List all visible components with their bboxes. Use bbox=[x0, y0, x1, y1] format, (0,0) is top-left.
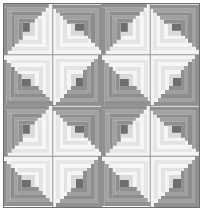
dark-log-bottom bbox=[67, 192, 90, 196]
quilt-block bbox=[4, 55, 53, 106]
dark-log-right bbox=[102, 109, 106, 156]
quilt-block bbox=[4, 106, 53, 157]
dark-log-bottom bbox=[116, 121, 132, 125]
dark-log-right bbox=[195, 55, 199, 102]
dark-log-bottom bbox=[91, 12, 95, 42]
light-log-left bbox=[157, 144, 189, 148]
light-log-top bbox=[144, 161, 148, 199]
dark-log-right bbox=[94, 160, 98, 199]
dark-log-right bbox=[116, 191, 140, 195]
dark-log-bottom bbox=[56, 203, 101, 207]
light-log-left bbox=[59, 43, 91, 47]
light-log-left bbox=[34, 23, 38, 39]
quilt-block bbox=[102, 55, 151, 106]
dark-log-right bbox=[83, 171, 87, 187]
center-square-dark bbox=[22, 79, 31, 87]
dark-log-bottom bbox=[192, 9, 196, 47]
dark-log-bottom bbox=[181, 121, 185, 137]
light-log-left bbox=[143, 12, 147, 51]
light-log-left bbox=[136, 121, 140, 145]
dark-log-bottom bbox=[169, 188, 185, 192]
dark-log-right bbox=[18, 191, 42, 195]
dark-log-right bbox=[150, 107, 196, 111]
light-log-left bbox=[38, 121, 42, 145]
center-square-dark bbox=[75, 125, 84, 133]
dark-log-right bbox=[192, 160, 196, 199]
light-log-left bbox=[38, 19, 42, 43]
quilt-block bbox=[150, 4, 199, 55]
dark-log-right bbox=[91, 62, 95, 94]
dark-log-bottom bbox=[185, 117, 189, 140]
dark-log-right bbox=[184, 66, 188, 90]
light-log-left bbox=[132, 125, 136, 141]
quilt-block bbox=[53, 4, 102, 55]
dark-log-bottom bbox=[11, 113, 41, 117]
dark-log-bottom bbox=[185, 16, 189, 39]
light-log-top bbox=[112, 43, 142, 47]
quilt-block bbox=[53, 156, 102, 207]
dark-log-right bbox=[91, 164, 95, 196]
light-log-left bbox=[150, 50, 196, 54]
dark-log-bottom bbox=[192, 110, 196, 148]
dark-log-bottom bbox=[60, 199, 98, 203]
dark-log-bottom bbox=[15, 117, 38, 121]
dark-log-right bbox=[14, 195, 46, 199]
dark-log-right bbox=[112, 121, 116, 145]
dark-log-bottom bbox=[165, 90, 188, 94]
light-log-top bbox=[109, 149, 147, 153]
dark-log-right bbox=[116, 90, 140, 94]
dark-log-bottom bbox=[154, 203, 199, 207]
dark-log-bottom bbox=[104, 165, 108, 203]
dark-log-bottom bbox=[60, 98, 98, 102]
dark-log-right bbox=[83, 70, 87, 86]
dark-log-bottom bbox=[95, 9, 99, 47]
center-square-dark bbox=[172, 23, 181, 31]
dark-log-right bbox=[22, 86, 38, 90]
light-log-left bbox=[164, 35, 180, 39]
light-log-left bbox=[153, 46, 192, 50]
center-square-dark bbox=[173, 179, 181, 188]
dark-log-bottom bbox=[87, 117, 91, 140]
center-square-dark bbox=[76, 179, 84, 188]
dark-log-bottom bbox=[165, 192, 188, 196]
dark-log-bottom bbox=[196, 107, 199, 152]
dark-log-right bbox=[188, 164, 192, 196]
dark-log-right bbox=[116, 23, 120, 39]
dark-log-bottom bbox=[161, 196, 191, 200]
dark-log-right bbox=[164, 121, 180, 125]
dark-log-bottom bbox=[189, 114, 193, 144]
quilt-block bbox=[102, 156, 151, 207]
dark-log-bottom bbox=[196, 5, 199, 50]
dark-log-right bbox=[112, 19, 116, 43]
quilt-block bbox=[53, 106, 102, 157]
light-log-left bbox=[53, 50, 99, 54]
light-log-left bbox=[42, 117, 46, 149]
light-log-top bbox=[140, 63, 144, 93]
dark-log-right bbox=[161, 117, 185, 121]
dark-log-bottom bbox=[71, 188, 87, 192]
dark-log-bottom bbox=[4, 106, 49, 110]
dark-log-bottom bbox=[116, 176, 120, 192]
quilt-block bbox=[53, 55, 102, 106]
dark-log-right bbox=[184, 168, 188, 192]
dark-log-right bbox=[7, 101, 53, 105]
dark-log-bottom bbox=[108, 168, 112, 198]
dark-log-bottom bbox=[158, 199, 196, 203]
dark-log-bottom bbox=[109, 113, 139, 117]
dark-log-bottom bbox=[112, 117, 135, 121]
quilt-block bbox=[150, 156, 199, 207]
dark-log-bottom bbox=[104, 63, 108, 101]
dark-log-right bbox=[112, 195, 144, 199]
light-log-left bbox=[67, 35, 83, 39]
light-log-top bbox=[42, 165, 46, 195]
dark-log-right bbox=[56, 110, 95, 114]
dark-log-bottom bbox=[87, 16, 91, 39]
dark-log-bottom bbox=[83, 121, 87, 137]
dark-log-right bbox=[53, 107, 99, 111]
light-log-top bbox=[42, 63, 46, 93]
log-cabin-quilt-figure: Log Cabin Quilt Pattern Monochrome line … bbox=[0, 0, 203, 211]
dark-log-right bbox=[11, 97, 50, 101]
dark-log-bottom bbox=[161, 94, 191, 98]
dark-log-right bbox=[63, 117, 87, 121]
dark-log-bottom bbox=[181, 20, 185, 36]
